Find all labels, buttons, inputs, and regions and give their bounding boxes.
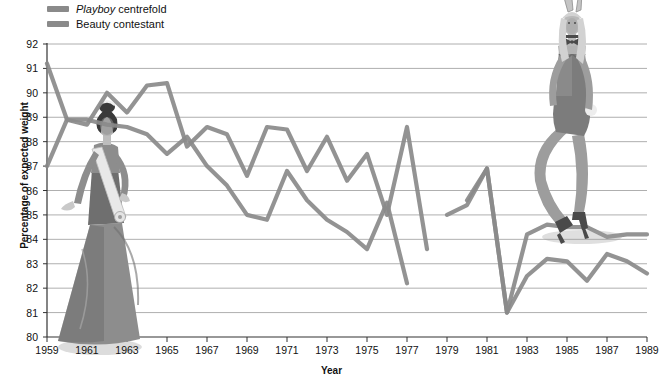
x-tick-label-1981: 1981 [467,345,507,355]
x-tick-label-1985: 1985 [547,345,587,355]
x-tick-label-1971: 1971 [267,345,307,355]
x-tick-label-1989: 1989 [627,345,663,355]
x-tick-label-1979: 1979 [427,345,467,355]
y-tick-label-82: 82 [12,283,38,293]
plot-area: 80818283848586878889909192 1959196119631… [0,0,663,388]
y-tick-label-85: 85 [12,210,38,220]
y-tick-label-84: 84 [12,234,38,244]
x-tick-label-1967: 1967 [187,345,227,355]
y-tick-label-87: 87 [12,161,38,171]
x-tick-label-1959: 1959 [27,345,67,355]
chart-root: Playboy centrefold Beauty contestant Per… [0,0,663,388]
x-tick-label-1977: 1977 [387,345,427,355]
x-tick-label-1973: 1973 [307,345,347,355]
y-tick-label-90: 90 [12,88,38,98]
x-tick-label-1965: 1965 [147,345,187,355]
x-tick-label-1983: 1983 [507,345,547,355]
x-tick-label-1987: 1987 [587,345,627,355]
y-tick-label-86: 86 [12,186,38,196]
y-tick-label-80: 80 [12,332,38,342]
y-tick-label-92: 92 [12,39,38,49]
playboy-centrefold-illustration [534,0,622,244]
y-tick-label-89: 89 [12,112,38,122]
x-tick-label-1975: 1975 [347,345,387,355]
y-tick-label-88: 88 [12,137,38,147]
axis-ticks [43,44,647,342]
x-tick-label-1963: 1963 [107,345,147,355]
x-tick-label-1961: 1961 [67,345,107,355]
beauty-contestant-illustration [58,101,142,355]
x-tick-label-1969: 1969 [227,345,267,355]
y-tick-label-83: 83 [12,259,38,269]
y-tick-label-91: 91 [12,63,38,73]
y-tick-label-81: 81 [12,308,38,318]
chart-svg [0,0,663,388]
